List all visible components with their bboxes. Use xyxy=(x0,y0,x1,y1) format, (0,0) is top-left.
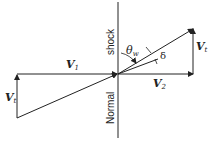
vector-lines xyxy=(0,0,215,146)
resultant-lower-arrow xyxy=(17,74,117,118)
shock-label: shock xyxy=(105,29,116,55)
deflected-line xyxy=(118,59,158,74)
delta-tick-upper xyxy=(146,47,151,53)
delta-label: δ xyxy=(160,51,166,61)
oblique-shock-velocity-diagram: V1 V2 Vt Vt θw δ shock Normal xyxy=(0,0,215,146)
v2-label: V2 xyxy=(153,78,166,91)
vt-left-label: Vt xyxy=(5,92,16,105)
normal-label: Normal xyxy=(105,92,116,124)
vt-right-label: Vt xyxy=(196,41,207,54)
v1-label: V1 xyxy=(66,59,79,72)
theta-w-label: θw xyxy=(126,45,139,58)
